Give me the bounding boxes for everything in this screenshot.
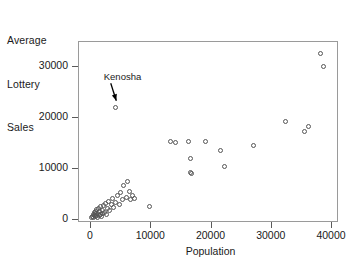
annotation-arrow-icon [0,0,359,270]
scatter-plot-figure: Average Lottery Sales 010000200003000001… [0,0,359,270]
